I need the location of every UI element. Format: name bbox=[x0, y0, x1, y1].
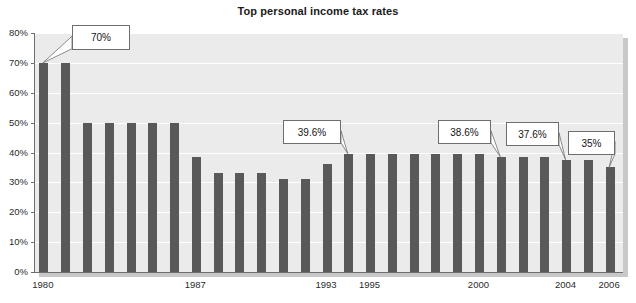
data-callout-label: 38.6% bbox=[438, 120, 491, 144]
bar bbox=[279, 179, 288, 272]
y-axis-tick-mark bbox=[31, 242, 34, 243]
chart-title: Top personal income tax rates bbox=[0, 5, 636, 17]
bar bbox=[453, 154, 462, 272]
y-axis-tick-mark bbox=[31, 272, 34, 273]
x-axis-line bbox=[34, 272, 623, 273]
y-axis-tick-label: 80% bbox=[0, 27, 28, 38]
y-axis-tick-label: 70% bbox=[0, 57, 28, 68]
bar bbox=[410, 154, 419, 272]
y-axis-tick-mark bbox=[31, 212, 34, 213]
plot-area bbox=[34, 33, 623, 272]
data-callout-label: 37.6% bbox=[506, 122, 559, 146]
x-axis-tick-label: 1980 bbox=[23, 279, 63, 290]
y-axis-tick-label: 20% bbox=[0, 206, 28, 217]
bar bbox=[344, 154, 353, 272]
bar bbox=[257, 173, 266, 272]
x-axis-tick-label: 2006 bbox=[589, 279, 629, 290]
bar bbox=[214, 173, 223, 272]
y-axis-tick-label: 30% bbox=[0, 176, 28, 187]
bar bbox=[475, 154, 484, 272]
y-axis-tick-label: 40% bbox=[0, 147, 28, 158]
bar bbox=[431, 154, 440, 272]
bar bbox=[366, 154, 375, 272]
gridline bbox=[35, 153, 623, 154]
y-axis-line bbox=[34, 33, 35, 273]
bar bbox=[105, 123, 114, 272]
y-axis-tick-label: 10% bbox=[0, 236, 28, 247]
y-axis-tick-mark bbox=[31, 63, 34, 64]
bar bbox=[61, 63, 70, 272]
data-callout-label: 39.6% bbox=[283, 120, 341, 144]
bar bbox=[497, 157, 506, 272]
y-axis-tick-mark bbox=[31, 182, 34, 183]
x-axis-tick-label: 1987 bbox=[175, 279, 215, 290]
bar bbox=[83, 123, 92, 272]
y-axis-tick-label: 0% bbox=[0, 266, 28, 277]
bar bbox=[148, 123, 157, 272]
y-axis-tick-mark bbox=[31, 93, 34, 94]
x-axis-tick-label: 1993 bbox=[306, 279, 346, 290]
bar bbox=[388, 154, 397, 272]
bar bbox=[39, 63, 48, 272]
gridline bbox=[35, 63, 623, 64]
gridline bbox=[35, 93, 623, 94]
bar bbox=[519, 157, 528, 272]
y-axis-tick-mark bbox=[31, 153, 34, 154]
bar bbox=[235, 173, 244, 272]
data-callout-label: 70% bbox=[72, 25, 130, 50]
bar bbox=[606, 167, 615, 272]
bar bbox=[323, 164, 332, 272]
y-axis-tick-mark bbox=[31, 33, 34, 34]
bar bbox=[127, 123, 136, 272]
y-axis: 0%10%20%30%40%50%60%70%80% bbox=[0, 0, 32, 303]
x-axis-tick-label: 1995 bbox=[350, 279, 390, 290]
bar bbox=[170, 123, 179, 272]
bar bbox=[540, 157, 549, 272]
bar bbox=[192, 157, 201, 272]
bar bbox=[301, 179, 310, 272]
bar bbox=[562, 160, 571, 272]
y-axis-tick-label: 50% bbox=[0, 117, 28, 128]
chart-container: Top personal income tax rates 0%10%20%30… bbox=[0, 0, 636, 303]
y-axis-tick-mark bbox=[31, 123, 34, 124]
x-axis-tick-label: 2004 bbox=[546, 279, 586, 290]
y-axis-tick-label: 60% bbox=[0, 87, 28, 98]
x-axis-tick-label: 2000 bbox=[458, 279, 498, 290]
bar bbox=[584, 160, 593, 272]
data-callout-label: 35% bbox=[568, 131, 615, 155]
